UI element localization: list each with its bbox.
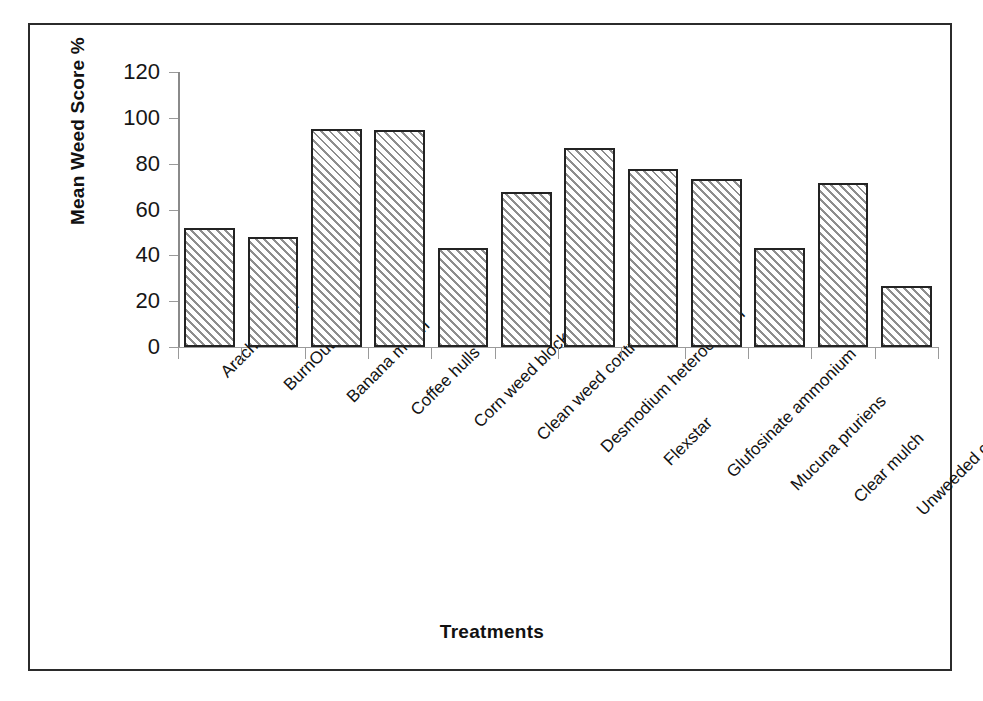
x-axis-tick-label: Flexstar bbox=[660, 455, 674, 469]
bar bbox=[754, 248, 805, 347]
y-axis-tick bbox=[169, 255, 178, 256]
bar bbox=[374, 130, 425, 347]
x-axis-tick bbox=[558, 347, 559, 359]
x-axis-tick-label: Clean weed control bbox=[533, 430, 547, 444]
y-axis-tick bbox=[169, 72, 178, 73]
x-axis-tick bbox=[875, 347, 876, 359]
x-axis-tick bbox=[305, 347, 306, 359]
bar bbox=[311, 129, 362, 347]
x-axis-tick-label: Clear mulch bbox=[850, 493, 864, 507]
y-axis-tick bbox=[169, 164, 178, 165]
x-axis-tick-label: BurnOut bbox=[280, 380, 294, 394]
bar bbox=[818, 183, 869, 347]
x-axis-tick-label: Desmodium heterocarpon bbox=[597, 443, 611, 457]
y-axis-title: Mean Weed Score % bbox=[67, 21, 89, 241]
bar bbox=[564, 148, 615, 347]
y-axis-tick-label: 40 bbox=[100, 242, 160, 268]
x-axis-tick bbox=[938, 347, 939, 359]
x-axis-tick bbox=[178, 347, 179, 359]
bar bbox=[628, 169, 679, 347]
x-axis-tick bbox=[621, 347, 622, 359]
y-axis-tick-label: 20 bbox=[100, 288, 160, 314]
bar bbox=[881, 286, 932, 347]
y-axis-tick bbox=[169, 347, 178, 348]
x-axis-title: Treatments bbox=[30, 621, 954, 643]
y-axis-tick bbox=[169, 118, 178, 119]
bar bbox=[501, 192, 552, 347]
x-axis-tick-label: Banana mulch bbox=[343, 393, 357, 407]
chart-figure: Mean Weed Score % 020406080100120Arachis… bbox=[28, 23, 952, 671]
y-axis-tick bbox=[169, 210, 178, 211]
x-axis-tick bbox=[685, 347, 686, 359]
x-axis-tick bbox=[748, 347, 749, 359]
y-axis-tick-label: 120 bbox=[100, 59, 160, 85]
x-axis-tick bbox=[241, 347, 242, 359]
x-axis-tick-label: Arachis pintoi bbox=[217, 368, 231, 382]
x-axis-tick-label: Mucuna pruriens bbox=[787, 480, 801, 494]
y-axis-tick-label: 60 bbox=[100, 197, 160, 223]
x-axis-tick bbox=[368, 347, 369, 359]
y-axis-tick-label: 100 bbox=[100, 105, 160, 131]
bar bbox=[248, 237, 299, 347]
x-axis-tick-label: Coffee hulls bbox=[407, 405, 421, 419]
bar bbox=[691, 179, 742, 347]
bar bbox=[184, 228, 235, 347]
y-axis-tick bbox=[169, 301, 178, 302]
plot-area: 020406080100120Arachis pintoiBurnOutBana… bbox=[178, 72, 938, 347]
x-axis-tick bbox=[811, 347, 812, 359]
y-axis-tick-label: 0 bbox=[100, 334, 160, 360]
y-axis-line bbox=[178, 72, 180, 348]
x-axis-tick bbox=[431, 347, 432, 359]
x-axis-tick bbox=[495, 347, 496, 359]
x-axis-tick-label: Corn weed blocker bbox=[470, 418, 484, 432]
bar bbox=[438, 248, 489, 347]
y-axis-tick-label: 80 bbox=[100, 151, 160, 177]
x-axis-tick-label: Unweeded control bbox=[913, 505, 927, 519]
x-axis-tick-label: Glufosinate ammonium bbox=[723, 468, 737, 482]
